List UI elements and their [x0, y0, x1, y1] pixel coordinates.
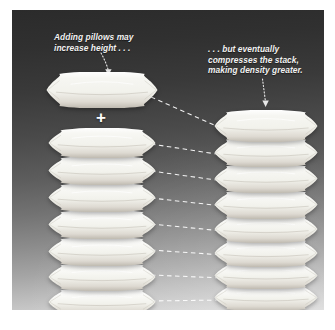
connector-line: [151, 224, 223, 231]
pillow-right-stack: [214, 190, 318, 219]
pillow-left-stack: [48, 183, 156, 212]
connector-line: [151, 171, 223, 181]
pillow-left-stack: [48, 128, 156, 158]
pillow-right-stack: [214, 110, 318, 142]
connector-line: [151, 97, 223, 129]
pillow-left-top: [46, 72, 158, 108]
pillow-right-stack: [214, 215, 318, 243]
annotation-left-text: Adding pillows may increase height . . .: [54, 32, 166, 53]
pillow-right-stack: [214, 138, 318, 167]
pillow-left-stack: [48, 263, 156, 291]
connector-line: [151, 300, 223, 301]
pillow-left-stack: [48, 237, 156, 266]
pillow-right-stack: [214, 239, 318, 267]
diagram-panel: + Adding pillows may increase height . .…: [12, 10, 324, 310]
figure-root: + Adding pillows may increase height . .…: [0, 0, 335, 330]
dotted-arrow-down-icon-right: [257, 79, 275, 109]
annotation-right-text: . . . but eventually compresses the stac…: [208, 44, 324, 76]
connector-line: [151, 198, 223, 206]
plus-operator: +: [96, 109, 106, 126]
connector-line: [151, 144, 223, 155]
pillow-left-stack: [48, 156, 156, 185]
pillow-left-stack: [48, 288, 156, 310]
pillow-right-stack: [214, 164, 318, 193]
connector-line: [151, 275, 223, 278]
pillow-left-stack: [48, 210, 156, 239]
connector-line: [151, 250, 223, 255]
